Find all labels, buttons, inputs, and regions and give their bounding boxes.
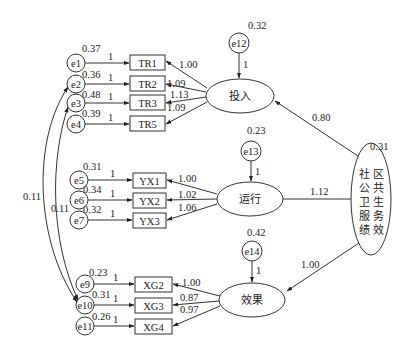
residual-label: e14 xyxy=(244,246,260,257)
svg-text:XG2: XG2 xyxy=(143,280,163,291)
svg-text:e11: e11 xyxy=(78,321,93,332)
svg-text:1.09: 1.09 xyxy=(167,78,185,89)
residual-path: 1 xyxy=(255,166,260,177)
svg-text:0.97: 0.97 xyxy=(180,304,198,315)
factor-label-char: 社 xyxy=(359,167,370,181)
residual-variance: 0.23 xyxy=(247,125,265,136)
factor-F2: 运行 e13 0.23 1 xyxy=(217,125,283,216)
svg-text:1.09: 1.09 xyxy=(167,102,185,113)
svg-text:0.36: 0.36 xyxy=(82,69,100,80)
path-F-F3 xyxy=(287,243,359,291)
factor-label-char: 卫 xyxy=(359,196,370,209)
svg-text:YX2: YX2 xyxy=(139,196,159,207)
svg-text:0.34: 0.34 xyxy=(83,184,102,195)
factor-label-char: 生 xyxy=(373,195,384,209)
factor-label-char: 效 xyxy=(373,223,384,237)
svg-text:1: 1 xyxy=(113,272,118,283)
path-coef: 1.00 xyxy=(301,259,319,270)
svg-text:TR2: TR2 xyxy=(138,79,157,90)
svg-text:1.00: 1.00 xyxy=(178,173,196,184)
svg-text:1: 1 xyxy=(110,168,115,179)
svg-text:e9: e9 xyxy=(80,279,90,290)
factor-F3: 效果 e14 0.42 1 xyxy=(219,227,285,317)
sem-path-diagram: 社 公 卫 服 绩 区 共 生 务 效 0.31 0.80 1.12 1.00 … xyxy=(0,0,408,358)
svg-text:1: 1 xyxy=(108,91,113,102)
svg-text:0.32: 0.32 xyxy=(83,204,101,215)
svg-text:1: 1 xyxy=(108,112,113,123)
svg-text:0.23: 0.23 xyxy=(89,267,107,278)
svg-text:e7: e7 xyxy=(74,215,84,226)
path-coef: 0.80 xyxy=(312,112,330,123)
path-coef: 1.12 xyxy=(310,186,328,197)
residual-label: e13 xyxy=(243,146,258,157)
svg-text:1: 1 xyxy=(113,293,118,304)
path-F-F1 xyxy=(275,101,358,156)
factor-label-char: 服 xyxy=(359,210,370,223)
residual-path: 1 xyxy=(256,265,261,276)
svg-text:1.00: 1.00 xyxy=(179,59,197,70)
svg-text:XG4: XG4 xyxy=(143,322,164,333)
svg-text:1: 1 xyxy=(110,188,115,199)
svg-text:e1: e1 xyxy=(71,58,81,69)
svg-text:0.39: 0.39 xyxy=(82,108,100,119)
svg-text:1.13: 1.13 xyxy=(170,89,188,100)
svg-text:0.37: 0.37 xyxy=(82,43,100,54)
svg-text:1: 1 xyxy=(113,314,118,325)
covariance-value: 0.11 xyxy=(23,191,41,202)
svg-text:1: 1 xyxy=(108,72,113,83)
svg-text:YX3: YX3 xyxy=(139,216,159,227)
factor-label-char: 共 xyxy=(373,182,384,195)
factor-F1: 投入 e12 0.32 1 xyxy=(206,20,274,113)
factor-label-char: 务 xyxy=(373,210,384,223)
factor-variance: 0.31 xyxy=(370,141,388,152)
residual-label: e12 xyxy=(231,38,246,49)
svg-text:0.26: 0.26 xyxy=(92,311,110,322)
svg-text:1.00: 1.00 xyxy=(182,277,200,288)
residual-path: 1 xyxy=(243,59,248,70)
covariance-value: 0.11 xyxy=(51,203,69,214)
second-order-factor: 社 公 卫 服 绩 区 共 生 务 效 0.31 xyxy=(351,141,391,255)
svg-text:0.87: 0.87 xyxy=(180,292,198,303)
svg-text:1: 1 xyxy=(108,51,113,62)
svg-text:0.31: 0.31 xyxy=(83,161,101,172)
svg-text:YX1: YX1 xyxy=(139,176,159,187)
svg-text:TR1: TR1 xyxy=(138,58,157,69)
factor-label: 投入 xyxy=(229,89,251,103)
svg-text:e3: e3 xyxy=(71,98,81,109)
svg-text:TR5: TR5 xyxy=(138,119,157,130)
svg-text:0.31: 0.31 xyxy=(92,289,110,300)
residual-variance: 0.42 xyxy=(247,227,265,238)
residual-variance: 0.32 xyxy=(248,20,266,31)
svg-text:1.06: 1.06 xyxy=(178,202,196,213)
svg-text:1.02: 1.02 xyxy=(178,189,196,200)
svg-text:0.48: 0.48 xyxy=(82,89,100,100)
svg-text:TR3: TR3 xyxy=(138,98,157,109)
svg-text:XG3: XG3 xyxy=(143,301,163,312)
factor-label: 运行 xyxy=(239,193,261,206)
factor-label-char: 绩 xyxy=(359,224,370,237)
svg-text:1: 1 xyxy=(110,208,115,219)
svg-text:e4: e4 xyxy=(71,119,82,130)
svg-text:e10: e10 xyxy=(77,300,92,311)
factor-label: 效果 xyxy=(241,293,263,307)
factor-label-char: 区 xyxy=(373,168,384,181)
svg-text:e2: e2 xyxy=(71,79,81,90)
factor-label-char: 公 xyxy=(359,182,370,195)
